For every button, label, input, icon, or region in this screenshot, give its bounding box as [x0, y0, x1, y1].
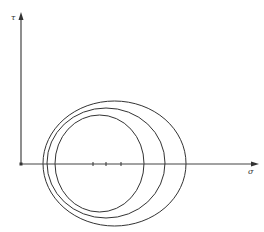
tau-axis-label: τ	[11, 13, 16, 22]
sigma-axis-label: σ	[248, 167, 254, 176]
mohr-circle-diagram: τ σ	[0, 0, 264, 232]
sigma-axis-arrow-icon	[251, 162, 259, 167]
origin-point	[20, 163, 23, 166]
tau-axis-arrow-icon	[19, 12, 24, 20]
